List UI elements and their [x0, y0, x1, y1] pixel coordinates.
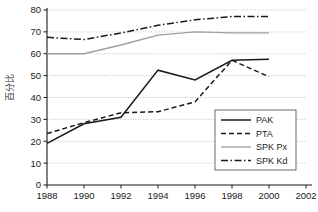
series-line-2 — [47, 32, 269, 54]
y-tick-label: 50 — [30, 70, 41, 81]
y-axis-title: 百分比 — [4, 74, 15, 101]
legend-label-1: PTA — [256, 129, 273, 139]
y-tick-label: 0 — [36, 179, 41, 190]
y-tick-label: 20 — [30, 136, 41, 147]
y-tick-label: 60 — [30, 48, 41, 59]
y-tick-label: 70 — [30, 26, 41, 37]
legend-label-2: SPK Px — [256, 142, 288, 152]
legend-label-3: SPK Kd — [256, 156, 288, 166]
series-line-3 — [47, 17, 269, 40]
x-tick-label: 2002 — [295, 190, 316, 201]
x-tick-label: 1992 — [110, 190, 131, 201]
line-chart: 0102030405060708019881990199219941996199… — [0, 0, 318, 212]
x-tick-label: 1998 — [221, 190, 242, 201]
y-tick-label: 80 — [30, 4, 41, 15]
y-tick-label: 30 — [30, 114, 41, 125]
x-tick-label: 1996 — [184, 190, 205, 201]
legend-label-0: PAK — [256, 115, 273, 125]
x-tick-label: 1990 — [73, 190, 94, 201]
y-tick-label: 40 — [30, 92, 41, 103]
x-tick-label: 2000 — [258, 190, 279, 201]
chart-canvas: 0102030405060708019881990199219941996199… — [0, 0, 318, 212]
y-tick-label: 10 — [30, 158, 41, 169]
x-tick-label: 1994 — [147, 190, 168, 201]
x-tick-label: 1988 — [36, 190, 57, 201]
